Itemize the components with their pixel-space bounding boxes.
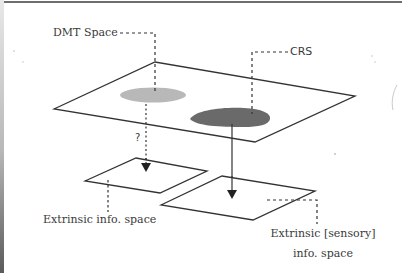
dmt-space-label: DMT Space [53, 26, 118, 39]
extrinsic-sensory-label-line2: info. space [262, 247, 384, 260]
dmt-crs-plane [54, 62, 355, 142]
scan-artifact [22, 61, 23, 62]
extrinsic-sensory-label-line1: Extrinsic [sensory] [262, 227, 384, 240]
scan-artifact [392, 85, 397, 110]
extrinsic-info-space-label: Extrinsic info. space [43, 213, 156, 226]
scan-artifact [334, 153, 336, 155]
extrinsic-sensory-plane [161, 176, 315, 220]
dmt-space-leader-line [120, 33, 155, 93]
scan-artifact [13, 50, 15, 52]
dmt-space-region [120, 88, 186, 103]
uncertainty-label: ? [135, 131, 140, 144]
diagram-canvas: DMT Space CRS ? Extrinsic info. space Ex… [0, 0, 402, 273]
scan-artifact [371, 55, 372, 56]
crs-region [190, 108, 270, 127]
crs-leader-line [252, 52, 288, 114]
crs-label: CRS [290, 45, 312, 58]
scan-artifact [374, 61, 375, 62]
